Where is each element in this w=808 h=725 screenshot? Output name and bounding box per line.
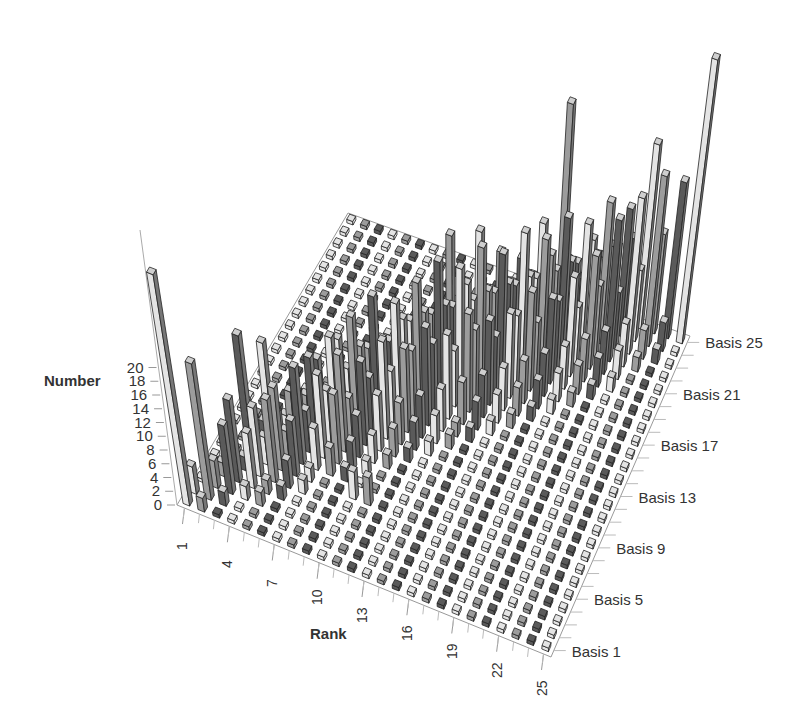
rank-tick-label: 19 xyxy=(444,644,460,660)
bar xyxy=(518,615,527,627)
basis-tick-label: Basis 9 xyxy=(616,540,665,557)
bar xyxy=(466,421,475,443)
basis-tick-label: Basis 21 xyxy=(683,386,741,403)
x-axis-title: Rank xyxy=(310,625,347,642)
basis-tick-label: Basis 1 xyxy=(572,643,621,660)
rank-tick-label: 13 xyxy=(354,607,370,623)
bar xyxy=(473,597,482,609)
bar xyxy=(398,567,407,579)
bar xyxy=(325,441,336,476)
bar xyxy=(458,591,467,603)
bar xyxy=(461,548,470,560)
rank-tick-label: 7 xyxy=(264,579,280,587)
bar xyxy=(467,610,476,622)
bar xyxy=(298,473,309,495)
bar xyxy=(479,585,488,597)
rank-tick-label: 16 xyxy=(399,626,415,642)
z-tick-label: 20 xyxy=(114,359,144,376)
bar xyxy=(424,435,433,457)
bar xyxy=(488,603,497,615)
bar xyxy=(348,465,359,501)
rank-tick-label: 25 xyxy=(534,680,550,696)
bar xyxy=(396,537,405,549)
bar xyxy=(255,485,266,507)
rank-tick-label: 22 xyxy=(489,662,505,678)
bar xyxy=(405,555,414,567)
bar xyxy=(497,622,506,634)
bar xyxy=(402,524,411,536)
bar xyxy=(218,485,229,507)
bar xyxy=(393,506,402,517)
bar xyxy=(422,592,431,604)
basis-tick-label: Basis 5 xyxy=(594,591,643,608)
bar xyxy=(428,579,437,591)
bar xyxy=(404,441,414,463)
bar xyxy=(512,628,521,640)
bar xyxy=(443,585,452,597)
basis-tick-label: Basis 17 xyxy=(661,437,719,454)
bar xyxy=(363,470,374,506)
rank-tick-label: 4 xyxy=(219,560,235,568)
bar xyxy=(449,573,458,585)
bar xyxy=(392,580,401,592)
bar xyxy=(506,407,515,429)
rank-tick-label: 1 xyxy=(174,542,190,550)
bar xyxy=(547,393,557,415)
bar xyxy=(445,428,454,450)
bar xyxy=(276,479,287,501)
bar xyxy=(196,491,208,513)
bar xyxy=(383,448,393,470)
rank-tick-label: 10 xyxy=(309,589,325,605)
bar xyxy=(486,414,495,436)
bar xyxy=(452,604,461,616)
bar xyxy=(527,400,536,422)
bar xyxy=(482,616,491,628)
basis-tick-label: Basis 25 xyxy=(705,334,763,351)
bar xyxy=(479,510,488,522)
z-axis-title: Number xyxy=(44,372,101,389)
bar xyxy=(503,609,512,621)
basis-tick-label: Basis 13 xyxy=(639,489,697,506)
bar xyxy=(240,479,251,501)
